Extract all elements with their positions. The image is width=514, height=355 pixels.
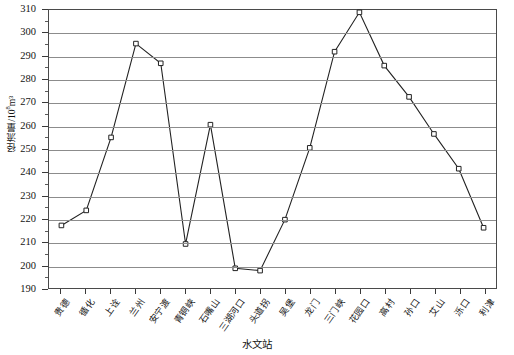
x-tick-label: 泺口 <box>453 298 471 318</box>
data-point-marker <box>332 49 337 54</box>
x-tick-mark <box>335 289 336 294</box>
y-tick-label: 300 <box>20 27 36 38</box>
gridline <box>49 173 496 174</box>
gridline <box>49 80 496 81</box>
gridline <box>49 197 496 198</box>
y-tick-label: 240 <box>20 167 36 178</box>
x-tick-mark <box>460 289 461 294</box>
x-tick-mark <box>435 289 436 294</box>
x-tick-mark <box>310 289 311 294</box>
x-tick-mark <box>85 289 86 294</box>
data-point-marker <box>481 225 486 230</box>
data-point-marker <box>134 41 139 46</box>
series-polyline <box>61 12 483 270</box>
gridline <box>49 243 496 244</box>
data-point-marker <box>456 166 461 171</box>
y-tick-label: 270 <box>20 97 36 108</box>
x-tick-label: 贵德 <box>54 298 72 318</box>
x-tick-mark <box>485 289 486 294</box>
gridline <box>49 127 496 128</box>
x-tick-mark <box>385 289 386 294</box>
x-tick-mark <box>410 289 411 294</box>
x-tick-label: 艾山 <box>428 298 446 318</box>
data-point-marker <box>84 208 89 213</box>
x-tick-label: 青铜峡 <box>174 298 197 326</box>
data-point-marker <box>59 223 64 228</box>
y-tick-label: 290 <box>20 50 36 61</box>
x-tick-mark <box>260 289 261 294</box>
gridline <box>49 267 496 268</box>
x-tick-label: 龙门 <box>304 298 322 318</box>
x-tick-label: 三门峡 <box>323 298 346 326</box>
data-point-marker <box>258 268 263 273</box>
plot-area <box>48 9 497 289</box>
gridline <box>49 150 496 151</box>
y-tick-label: 260 <box>20 120 36 131</box>
x-tick-mark <box>60 289 61 294</box>
x-tick-label: 上诠 <box>104 298 122 318</box>
data-point-marker <box>407 95 412 100</box>
x-tick-mark <box>235 289 236 294</box>
y-tick-label: 200 <box>20 260 36 271</box>
x-tick-mark <box>185 289 186 294</box>
series-markers <box>59 10 486 273</box>
y-tick-label: 230 <box>20 190 36 201</box>
x-tick-mark <box>110 289 111 294</box>
x-tick-label: 三湖河口 <box>218 298 246 333</box>
x-tick-label: 高村 <box>378 298 396 318</box>
y-tick-label: 280 <box>20 74 36 85</box>
x-tick-label: 花园口 <box>348 298 371 326</box>
x-tick-label: 安宁渡 <box>149 298 172 326</box>
x-tick-label: 兰州 <box>129 298 147 318</box>
y-tick-label: 190 <box>20 284 36 295</box>
x-tick-label: 吴堡 <box>279 298 297 318</box>
data-point-marker <box>158 61 163 66</box>
x-tick-label: 头道拐 <box>249 298 272 326</box>
gridline <box>49 220 496 221</box>
data-point-marker <box>432 132 437 137</box>
gridline <box>49 103 496 104</box>
x-tick-mark <box>360 289 361 294</box>
y-tick-label: 210 <box>20 237 36 248</box>
gridline <box>49 33 496 34</box>
x-tick-label: 石嘴山 <box>199 298 222 326</box>
x-tick-mark <box>285 289 286 294</box>
y-tick-label: 310 <box>20 4 36 15</box>
y-tick-label: 220 <box>20 214 36 225</box>
y-tick-label: 250 <box>20 144 36 155</box>
x-tick-mark <box>210 289 211 294</box>
runoff-line-chart: 径流量/108m³ 190200210220230240250260270280… <box>0 0 514 355</box>
data-point-marker <box>109 135 114 140</box>
x-tick-label: 循化 <box>79 298 97 318</box>
data-point-marker <box>382 63 387 68</box>
y-axis: 190200210220230240250260270280290300310 <box>0 0 48 298</box>
x-tick-label: 孙口 <box>403 298 421 318</box>
x-tick-label: 利津 <box>478 298 496 318</box>
gridline <box>49 57 496 58</box>
x-tick-mark <box>160 289 161 294</box>
x-axis-title: 水文站 <box>0 336 514 351</box>
data-point-marker <box>357 10 362 15</box>
series-line <box>49 10 496 288</box>
x-tick-mark <box>135 289 136 294</box>
